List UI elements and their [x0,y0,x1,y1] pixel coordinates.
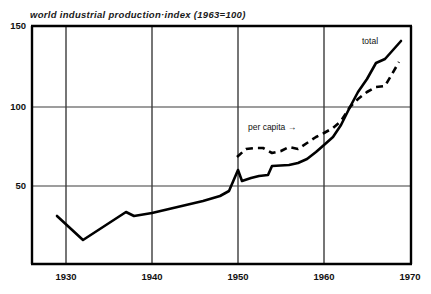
chart-container: world industrial production·index (1963=… [0,0,431,294]
plot-frame [31,26,412,264]
gridlines [31,26,412,264]
chart-plot-area [0,0,431,294]
series-line-per-capita [237,62,399,157]
series-line-total [57,41,401,240]
